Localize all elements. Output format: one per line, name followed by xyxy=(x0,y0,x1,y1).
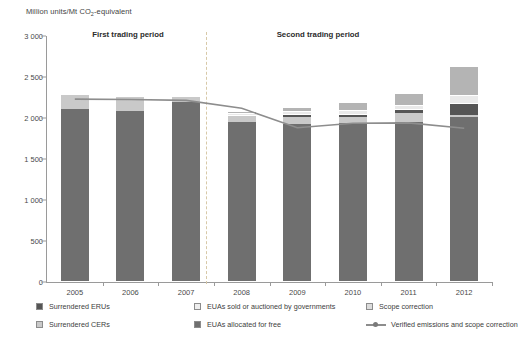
legend-item-label: EUAs sold or auctioned by governments xyxy=(207,302,335,311)
verified-emissions-line xyxy=(75,99,464,128)
x-axis-tick-label: 2006 xyxy=(122,288,139,297)
x-axis-tick-label: 2011 xyxy=(400,288,416,297)
y-axis-tick-mark xyxy=(41,77,46,78)
y-axis-title: Million units/Mt CO2-equivalent xyxy=(26,7,132,16)
x-axis-tick-mark xyxy=(381,282,382,286)
x-axis-tick-mark xyxy=(103,282,104,286)
y-axis-title-tail: -equivalent xyxy=(94,7,132,16)
legend-swatch-icon xyxy=(36,303,43,310)
legend-swatch-icon xyxy=(194,321,201,328)
x-axis-tick-mark xyxy=(325,282,326,286)
legend-item-euasold[interactable]: EUAs sold or auctioned by governments xyxy=(194,302,335,311)
legend-item-erus[interactable]: Surrendered ERUs xyxy=(36,302,110,311)
legend-item-line[interactable]: Verified emissions and scope correction xyxy=(366,320,518,329)
y-axis-title-subscript: 2 xyxy=(91,11,94,17)
x-axis-tick-label: 2010 xyxy=(345,288,362,297)
x-axis-tick-mark xyxy=(214,282,215,286)
x-axis-tick-label: 2007 xyxy=(178,288,195,297)
y-axis-tick-mark xyxy=(41,200,46,201)
legend-swatch-icon xyxy=(366,303,373,310)
legend-item-label: Scope correction xyxy=(379,302,433,311)
legend-item-euafree[interactable]: EUAs allocated for free xyxy=(194,320,281,329)
y-axis-tick-mark xyxy=(41,282,46,283)
x-axis-tick-mark xyxy=(492,282,493,286)
legend-item-label: Surrendered ERUs xyxy=(49,302,110,311)
chart-legend: Surrendered ERUsSurrendered CERsEUAs sol… xyxy=(36,300,496,342)
x-axis-tick-mark xyxy=(436,282,437,286)
legend-item-label: Surrendered CERs xyxy=(49,320,110,329)
legend-line-marker-icon xyxy=(366,321,386,328)
legend-swatch-icon xyxy=(194,303,201,310)
y-axis-title-main: Million units/Mt CO xyxy=(26,7,91,16)
x-axis-tick-label: 2009 xyxy=(289,288,306,297)
y-axis-tick-mark xyxy=(41,241,46,242)
x-axis-tick-label: 2008 xyxy=(233,288,250,297)
plot-area xyxy=(47,36,492,282)
legend-item-label: Verified emissions and scope correction xyxy=(391,320,518,329)
y-axis-tick-mark xyxy=(41,36,46,37)
legend-item-label: EUAs allocated for free xyxy=(207,320,281,329)
y-axis-tick-mark xyxy=(41,159,46,160)
x-axis-tick-mark xyxy=(158,282,159,286)
x-axis-tick-mark xyxy=(270,282,271,286)
legend-item-cers[interactable]: Surrendered CERs xyxy=(36,320,110,329)
legend-item-scope[interactable]: Scope correction xyxy=(366,302,433,311)
verified-emissions-line-layer xyxy=(47,36,492,282)
legend-swatch-icon xyxy=(36,321,43,328)
x-axis-tick-label: 2012 xyxy=(456,288,473,297)
y-axis-tick-mark xyxy=(41,118,46,119)
x-axis-tick-label: 2005 xyxy=(66,288,83,297)
